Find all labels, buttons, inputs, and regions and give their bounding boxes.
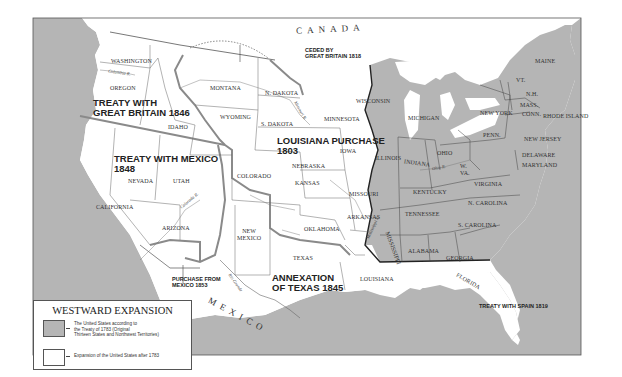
state-rhode-island: RHODE ISLAND [543,113,588,119]
state-colorado: COLORADO [237,173,271,179]
state-idaho: IDAHO [168,124,188,130]
state-montana: MONTANA [210,85,241,91]
state-missouri: MISSOURI [349,191,378,197]
legend-dash [66,356,70,357]
state-georgia: GEORGIA [446,255,474,261]
state-minnesota: MINNESOTA [324,116,360,122]
state-ohio: OHIO [437,150,452,156]
state-utah: UTAH [173,178,190,184]
legend-dash [66,328,70,329]
legend-title: WESTWARD EXPANSION [34,305,191,316]
state-oklahoma: OKLAHOMA [304,226,340,232]
state-texas: TEXAS [293,255,313,261]
map-legend: WESTWARD EXPANSION The United States acc… [33,300,192,370]
state-nebraska: NEBRASKA [292,163,325,169]
state-oregon: OREGON [110,85,136,91]
legend-label-original: The United States according to the Treat… [74,321,159,338]
label-treaty-great-britain-1846: TREATY WITH GREAT BRITAIN 1846 [93,98,190,118]
state-n-dakota: N. DAKOTA [265,90,298,96]
state-maine: MAINE [535,58,555,64]
legend-swatch-expansion [43,349,65,366]
label-ceded-britain-1818: CEDED BY GREAT BRITAIN 1818 [305,47,361,59]
state-maryland: MARYLAND [522,162,557,168]
state-delaware: DELAWARE [522,152,555,158]
state-vt: VT. [516,77,525,83]
state-nh: N.H. [526,91,538,97]
state-kentucky: KENTUCKY [413,189,447,195]
state-wisconsin: WISCONSIN [356,98,390,104]
label-treaty-mexico-1848: TREATY WITH MEXICO 1848 [114,154,218,174]
legend-label-expansion: Expansion of the United States after 178… [74,353,159,359]
state-nevada: NEVADA [128,178,153,184]
state-n-carolina: N. CAROLINA [468,200,507,206]
state-new-mexico: NEW MEXICO [237,228,261,242]
label-purchase-mexico-1853: PURCHASE FROM MEXICO 1853 [172,276,221,288]
state-conn: CONN. [522,111,541,117]
label-treaty-spain-1819: TREATY WITH SPAIN 1819 [479,303,548,309]
state-iowa: IOWA [340,148,356,154]
state-wyoming: WYOMING [220,114,251,120]
state-s-carolina: S. CAROLINA [458,222,496,228]
label-annexation-texas-1845: ANNEXATION OF TEXAS 1845 [272,273,343,293]
state-tennessee: TENNESSEE [405,211,440,217]
state-alabama: ALABAMA [408,248,439,254]
state-s-dakota: S. DAKOTA [261,121,293,127]
state-virginia: VIRGINIA [474,181,502,187]
state-mass: MASS. [520,102,538,108]
state-illinois: ILLINOIS [375,155,401,161]
state-washington: WASHINGTON [111,58,152,64]
state-new-york: NEW YORK [480,110,513,116]
label-louisiana-purchase-1803: LOUISIANA PURCHASE 1803 [277,136,385,156]
state-louisiana: LOUISIANA [360,276,394,282]
state-kansas: KANSAS [295,180,320,186]
state-michigan: MICHIGAN [408,115,439,121]
state-new-jersey: NEW JERSEY [524,136,561,142]
state-penn: PENN. [483,132,501,138]
state-arizona: ARIZONA [162,225,190,231]
state-california: CALIFORNIA [96,204,133,210]
legend-swatch-original [43,320,65,337]
state-w-va: W. VA. [460,163,470,177]
